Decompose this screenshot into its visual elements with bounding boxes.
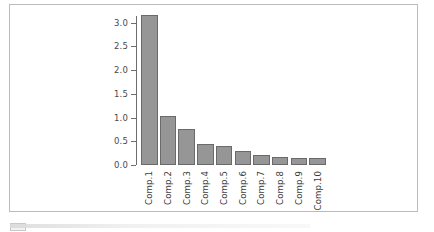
x-axis-tick-label: Comp.1 bbox=[143, 171, 155, 225]
bar bbox=[141, 15, 158, 165]
bar-series bbox=[10, 5, 417, 211]
x-axis-tick-label: Comp.7 bbox=[255, 171, 267, 225]
x-axis-tick-label-text: Comp.3 bbox=[182, 171, 192, 205]
x-axis-tick-label-text: Comp.9 bbox=[294, 171, 304, 205]
bar bbox=[235, 151, 252, 165]
x-axis-tick-label-text: Comp.6 bbox=[238, 171, 248, 205]
x-axis-tick-label: Comp.2 bbox=[162, 171, 174, 225]
bar bbox=[253, 155, 270, 165]
x-axis-tick-label-text: Comp.8 bbox=[275, 171, 285, 205]
bar bbox=[291, 158, 308, 165]
bar bbox=[272, 157, 289, 165]
x-axis-tick-label: Comp.10 bbox=[312, 171, 324, 225]
figure-frame: 0.00.51.01.52.02.53.0 Comp.1Comp.2Comp.3… bbox=[9, 4, 418, 212]
x-axis-tick-label-text: Comp.7 bbox=[256, 171, 266, 205]
x-axis-tick-label: Comp.5 bbox=[218, 171, 230, 225]
x-axis-tick-label: Comp.9 bbox=[293, 171, 305, 225]
bar bbox=[178, 129, 195, 165]
x-axis-tick-label-text: Comp.1 bbox=[144, 171, 154, 205]
x-axis-tick-label-text: Comp.10 bbox=[313, 171, 323, 210]
x-axis-tick-label-text: Comp.5 bbox=[219, 171, 229, 205]
bar bbox=[160, 116, 177, 165]
bar bbox=[309, 158, 326, 165]
x-axis-tick-label-text: Comp.4 bbox=[200, 171, 210, 205]
x-axis-tick-label: Comp.3 bbox=[181, 171, 193, 225]
x-axis-tick-label: Comp.6 bbox=[237, 171, 249, 225]
x-axis-tick-label: Comp.8 bbox=[274, 171, 286, 225]
scree-plot: 0.00.51.01.52.02.53.0 Comp.1Comp.2Comp.3… bbox=[10, 5, 417, 211]
bar bbox=[197, 144, 214, 165]
bar bbox=[216, 146, 233, 165]
x-axis-tick-label-text: Comp.2 bbox=[163, 171, 173, 205]
scan-artifact-line bbox=[10, 224, 310, 228]
x-axis-tick-label: Comp.4 bbox=[199, 171, 211, 225]
